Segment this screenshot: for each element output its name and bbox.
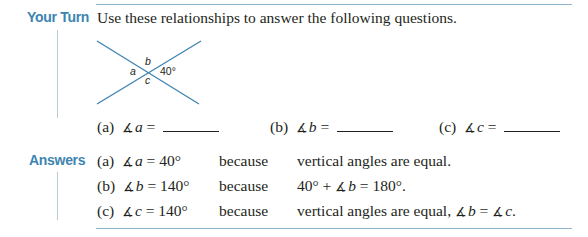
angle-icon: ∡ xyxy=(123,179,135,194)
answer-c-reason: vertical angles are equal, ∡b = ∡c. xyxy=(297,202,516,220)
angle-icon: ∡ xyxy=(122,120,134,135)
answer-blank-c xyxy=(504,130,560,132)
angle-icon: ∡ xyxy=(464,120,476,135)
angle-label-c: c xyxy=(145,74,150,86)
answers-side-line xyxy=(57,172,58,220)
question-b: (b) ∡b = xyxy=(270,118,393,136)
answer-b-reason: 40° + ∡b = 180°. xyxy=(297,177,406,195)
answer-a-expr: (a) ∡a = 40° xyxy=(97,152,181,170)
question-c: (c) ∡c = xyxy=(439,118,560,136)
answer-c-expr: (c) ∡c = 140° xyxy=(97,202,188,220)
top-rule xyxy=(96,4,572,5)
angle-icon: ∡ xyxy=(492,204,504,219)
angle-icon: ∡ xyxy=(335,179,347,194)
answer-a-reason: vertical angles are equal. xyxy=(297,152,451,170)
intersecting-lines-icon xyxy=(90,35,210,110)
answer-blank-b xyxy=(337,130,393,132)
answer-c-because: because xyxy=(219,202,268,220)
answers-label: Answers xyxy=(29,152,85,168)
your-turn-label: Your Turn xyxy=(27,9,89,25)
angle-icon: ∡ xyxy=(296,120,308,135)
question-a: (a) ∡a = xyxy=(97,118,219,136)
answer-blank-a xyxy=(163,130,219,132)
intersecting-lines-diagram: b a 40° c xyxy=(90,35,210,110)
answer-b-expr: (b) ∡b = 140° xyxy=(97,177,190,195)
answer-a-because: because xyxy=(219,152,268,170)
intro-text: Use these relationships to answer the fo… xyxy=(97,9,457,27)
answer-b-because: because xyxy=(219,177,268,195)
angle-icon: ∡ xyxy=(455,204,467,219)
angle-label-40: 40° xyxy=(160,65,176,77)
your-turn-side-line xyxy=(57,30,58,118)
angle-icon: ∡ xyxy=(122,154,134,169)
angle-label-a: a xyxy=(130,65,136,77)
angle-label-b: b xyxy=(145,55,151,67)
bottom-rule xyxy=(96,228,572,229)
angle-icon: ∡ xyxy=(122,204,134,219)
